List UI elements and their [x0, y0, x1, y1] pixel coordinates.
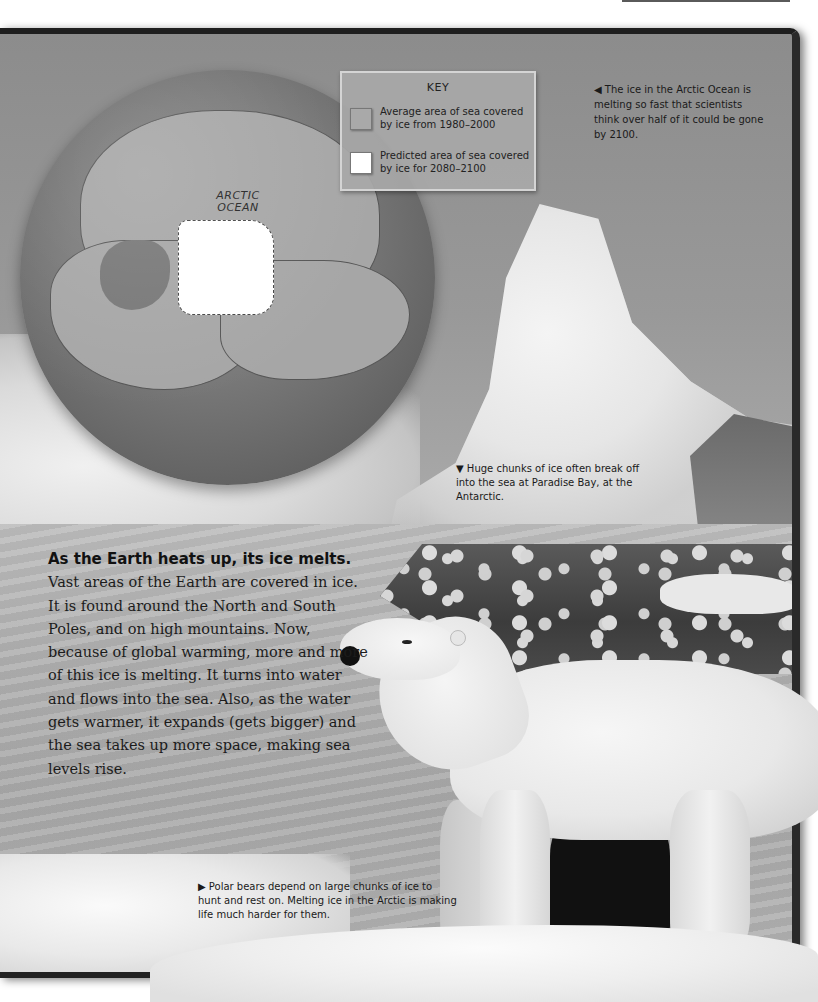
- polar-bear-image: [340, 600, 818, 980]
- predicted-ice-area: [178, 220, 274, 315]
- arctic-ocean-label: ARCTIC OCEAN: [198, 190, 278, 214]
- body-text: Vast areas of the Earth are covered in i…: [48, 574, 368, 776]
- map-key: KEY Average area of sea covered by ice f…: [340, 71, 536, 191]
- lead-heading: As the Earth heats up, its ice melts.: [48, 550, 351, 568]
- caption-iceberg: ▼ Huge chunks of ice often break off int…: [456, 462, 656, 504]
- ocean-label-line2: OCEAN: [198, 202, 278, 214]
- swatch-predicted-icon: [350, 152, 372, 174]
- bear-ear: [450, 630, 466, 646]
- body-paragraph: As the Earth heats up, its ice melts. Va…: [48, 548, 368, 781]
- bear-eye: [402, 640, 412, 644]
- key-item-average: Average area of sea covered by ice from …: [350, 105, 530, 131]
- key-item-label: Predicted area of sea covered by ice for…: [380, 149, 530, 175]
- caption-polar-bear: ▶ Polar bears depend on large chunks of …: [198, 880, 458, 922]
- key-title: KEY: [342, 81, 534, 94]
- caption-arctic: ◀ The ice in the Arctic Ocean is melting…: [594, 82, 764, 142]
- swatch-average-icon: [350, 108, 372, 130]
- key-item-label: Average area of sea covered by ice from …: [380, 105, 530, 131]
- key-item-predicted: Predicted area of sea covered by ice for…: [350, 149, 530, 175]
- bear-leg: [670, 790, 750, 950]
- page-header-rule: [622, 0, 790, 2]
